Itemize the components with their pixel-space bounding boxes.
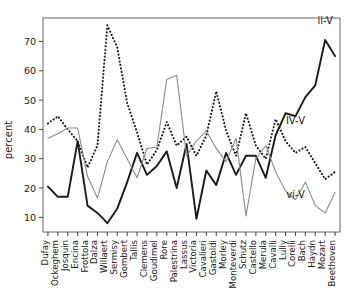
x-tick-label: Bach (297, 240, 307, 261)
x-tick-label: Monteverdi (228, 240, 238, 288)
x-tick-label: Rore (159, 240, 169, 259)
y-tick-label: 70 (24, 36, 36, 47)
y-tick-label: 60 (24, 65, 36, 76)
x-tick-label: Frottola (80, 240, 90, 273)
line-chart: 10203040506070 DufayOckeghemJosquinEncin… (0, 0, 355, 306)
x-tick-label: Goudimel (149, 240, 159, 281)
x-tick-label: Encina (70, 240, 80, 269)
x-tick-label: Cavalieri (198, 240, 208, 278)
x-axis: DufayOckeghemJosquinEncinaFrottolaDalzaW… (40, 232, 337, 288)
x-tick-label: Beethoven (327, 240, 337, 286)
x-tick-label: Gombert (119, 239, 129, 278)
annotation-vi-v: vi-V (286, 189, 305, 200)
x-tick-label: Morley (218, 240, 228, 269)
x-tick-label: Schutz (238, 240, 248, 269)
x-tick-label: Sermisy (109, 240, 119, 274)
chart-figure: 10203040506070 DufayOckeghemJosquinEncin… (0, 0, 355, 306)
y-tick-label: 10 (24, 212, 36, 223)
annotation-iv-v: IV-V (286, 115, 305, 126)
y-tick-label: 20 (24, 183, 36, 194)
x-tick-label: Haydn (307, 240, 317, 268)
x-tick-label: Gastoldi (208, 240, 218, 275)
x-tick-label: Lassus (179, 239, 189, 268)
y-tick-label: 50 (24, 95, 36, 106)
x-tick-label: Cavalli (268, 240, 278, 269)
x-tick-label: Clemens (139, 239, 149, 277)
y-axis-title: percent (3, 121, 14, 159)
series-line-iv-v (48, 25, 335, 179)
x-tick-label: Castello (248, 240, 258, 274)
x-tick-label: Dalza (89, 240, 99, 264)
x-tick-label: Willaert (99, 239, 109, 273)
annotation-ii-v: ii-V (317, 15, 333, 26)
y-tick-label: 40 (24, 124, 36, 135)
y-axis: 10203040506070 (24, 36, 43, 223)
x-tick-label: Josquin (60, 240, 70, 272)
x-tick-label: Palestrina (169, 240, 179, 282)
x-tick-label: Mozart (317, 239, 327, 269)
y-tick-label: 30 (24, 153, 36, 164)
x-tick-label: Ockeghem (50, 240, 60, 286)
x-tick-label: Dufay (40, 240, 50, 265)
x-tick-label: Merula (258, 240, 268, 269)
x-tick-label: Corelli (287, 240, 297, 267)
x-tick-label: Victoria (188, 240, 198, 273)
x-tick-label: Tallis (129, 239, 139, 261)
x-tick-label: Lully (278, 240, 288, 260)
